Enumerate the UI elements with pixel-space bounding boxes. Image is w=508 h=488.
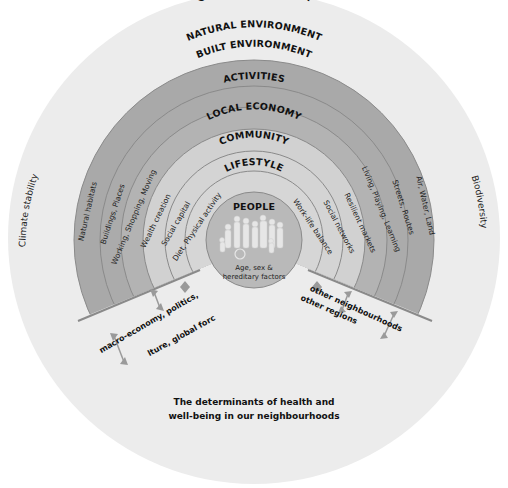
people-sublabel-1: Age, sex &	[235, 264, 273, 272]
caption-line-1: The determinants of health and	[174, 397, 335, 407]
people-sublabel-2: hereditary factors	[223, 273, 286, 281]
caption-line-2: well-being in our neighbourhoods	[168, 411, 339, 421]
people-label: PEOPLE	[233, 201, 275, 212]
health-determinants-diagram: PEOPLE Age, sex & hereditary factors GLO…	[0, 0, 508, 488]
